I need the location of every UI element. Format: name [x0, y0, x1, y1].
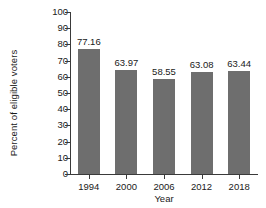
- x-axis-tick-label: 2012: [191, 181, 212, 192]
- x-axis-tick-label: 1994: [78, 181, 99, 192]
- bar-value-label: 63.08: [190, 59, 214, 70]
- bar-value-label: 77.16: [77, 36, 101, 47]
- bar: [115, 70, 137, 174]
- bar: [153, 79, 175, 174]
- x-axis-tick: [126, 175, 127, 179]
- x-axis-tick-label: 2018: [229, 181, 250, 192]
- bar: [191, 72, 213, 174]
- x-axis-tick-label: 2000: [116, 181, 137, 192]
- y-axis-title: Percent of eligible voters: [8, 23, 22, 183]
- y-axis-tick-labels: 1009080706050403020100: [44, 0, 68, 208]
- bar-chart: Percent of eligible voters 1009080706050…: [0, 0, 266, 208]
- x-axis-tick: [202, 175, 203, 179]
- x-axis-title: Year: [70, 193, 258, 204]
- x-axis-tick: [239, 175, 240, 179]
- x-axis-tick: [89, 175, 90, 179]
- bar: [78, 49, 100, 174]
- bar-value-label: 58.55: [152, 66, 176, 77]
- x-axis-tick-label: 2006: [153, 181, 174, 192]
- bar-value-label: 63.44: [227, 58, 251, 69]
- x-axis-tick: [164, 175, 165, 179]
- bar-value-label: 63.97: [115, 57, 139, 68]
- bar: [228, 71, 250, 174]
